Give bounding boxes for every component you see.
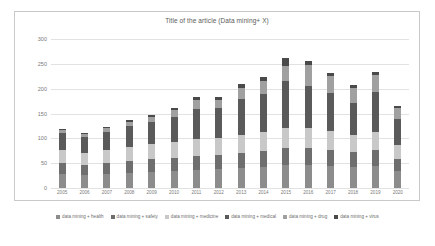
bar-segment[interactable]: [81, 153, 88, 165]
bar-segment[interactable]: [171, 158, 178, 171]
bar-segment[interactable]: [193, 100, 200, 109]
stacked-bar[interactable]: [59, 129, 66, 188]
stacked-bar[interactable]: [103, 127, 110, 188]
bar-segment[interactable]: [126, 126, 133, 147]
bar-segment[interactable]: [171, 110, 178, 117]
bar-segment[interactable]: [81, 137, 88, 153]
stacked-bar[interactable]: [394, 106, 401, 188]
legend-item[interactable]: data mining + medicine: [165, 214, 218, 219]
bar-segment[interactable]: [215, 169, 222, 188]
bar-segment[interactable]: [148, 159, 155, 172]
bar-segment[interactable]: [238, 153, 245, 168]
bar-segment[interactable]: [103, 174, 110, 188]
bar-segment[interactable]: [126, 173, 133, 188]
bar-segment[interactable]: [350, 167, 357, 188]
bar-segment[interactable]: [171, 171, 178, 188]
bar-segment[interactable]: [372, 92, 379, 133]
bar-segment[interactable]: [238, 99, 245, 136]
stacked-bar[interactable]: [350, 85, 357, 188]
bar-segment[interactable]: [282, 66, 289, 81]
bar-segment[interactable]: [193, 156, 200, 170]
bar-segment[interactable]: [215, 100, 222, 108]
bar-segment[interactable]: [238, 168, 245, 188]
stacked-bar[interactable]: [215, 97, 222, 188]
bar-segment[interactable]: [282, 81, 289, 129]
bar-segment[interactable]: [148, 144, 155, 159]
stacked-bar[interactable]: [126, 120, 133, 188]
bar-segment[interactable]: [394, 119, 401, 146]
bar-segment[interactable]: [327, 150, 334, 166]
bar-segment[interactable]: [126, 147, 133, 161]
stacked-bar[interactable]: [148, 115, 155, 188]
legend-item[interactable]: data mining + safety: [111, 214, 158, 219]
bar-segment[interactable]: [394, 145, 401, 159]
bar-slot: 2014: [252, 39, 274, 188]
bar-segment[interactable]: [327, 76, 334, 93]
bar-segment[interactable]: [394, 171, 401, 188]
stacked-bar[interactable]: [193, 97, 200, 188]
bar-segment[interactable]: [103, 163, 110, 174]
bar-segment[interactable]: [372, 132, 379, 150]
bar-segment[interactable]: [260, 94, 267, 133]
bar-segment[interactable]: [282, 165, 289, 188]
legend-item[interactable]: data mining + medical: [225, 214, 276, 219]
bar-segment[interactable]: [103, 150, 110, 163]
bar-segment[interactable]: [171, 117, 178, 143]
bar-segment[interactable]: [59, 150, 66, 163]
bar-segment[interactable]: [394, 108, 401, 119]
legend-item[interactable]: data mining + virus: [334, 214, 379, 219]
stacked-bar[interactable]: [171, 108, 178, 188]
bar-segment[interactable]: [215, 108, 222, 139]
bar-segment[interactable]: [305, 65, 312, 86]
bar-segment[interactable]: [193, 170, 200, 188]
bar-segment[interactable]: [372, 75, 379, 92]
bar-segment[interactable]: [305, 128, 312, 148]
bar-segment[interactable]: [215, 155, 222, 169]
stacked-bar[interactable]: [81, 133, 88, 188]
bar-segment[interactable]: [59, 163, 66, 174]
bar-segment[interactable]: [215, 138, 222, 155]
bar-segment[interactable]: [260, 81, 267, 94]
stacked-bar[interactable]: [327, 73, 334, 188]
bar-segment[interactable]: [350, 135, 357, 152]
bar-segment[interactable]: [148, 122, 155, 144]
bar-segment[interactable]: [305, 86, 312, 129]
bar-segment[interactable]: [305, 165, 312, 188]
bar-segment[interactable]: [59, 174, 66, 188]
bar-segment[interactable]: [193, 139, 200, 156]
bar-segment[interactable]: [193, 109, 200, 140]
bar-segment[interactable]: [148, 172, 155, 188]
legend-item[interactable]: data mining + health: [56, 214, 104, 219]
bar-segment[interactable]: [238, 88, 245, 99]
bar-segment[interactable]: [327, 131, 334, 150]
bar-segment[interactable]: [394, 159, 401, 171]
stacked-bar[interactable]: [260, 77, 267, 188]
bar-segment[interactable]: [260, 167, 267, 188]
bar-segment[interactable]: [282, 128, 289, 148]
bar-segment[interactable]: [372, 166, 379, 188]
bar-segment[interactable]: [59, 133, 66, 150]
bar-segment[interactable]: [305, 148, 312, 165]
bar-segment[interactable]: [260, 132, 267, 151]
bar-segment[interactable]: [327, 93, 334, 132]
bar-segment[interactable]: [103, 132, 110, 150]
legend-item[interactable]: data mining + drug: [283, 214, 327, 219]
bar-segment[interactable]: [171, 142, 178, 158]
bar-segment[interactable]: [126, 161, 133, 173]
stacked-bar[interactable]: [305, 61, 312, 188]
bar-segment[interactable]: [282, 58, 289, 66]
bar-segment[interactable]: [238, 135, 245, 153]
stacked-bar[interactable]: [282, 58, 289, 188]
bar-segment[interactable]: [81, 175, 88, 188]
stacked-bar[interactable]: [238, 84, 245, 188]
bar-segment[interactable]: [282, 148, 289, 165]
bar-segment[interactable]: [350, 152, 357, 167]
stacked-bar[interactable]: [372, 72, 379, 188]
bar-segment[interactable]: [260, 151, 267, 167]
x-axis-tick-label: 2008: [124, 190, 134, 195]
bar-segment[interactable]: [350, 88, 357, 103]
bar-segment[interactable]: [81, 165, 88, 175]
bar-segment[interactable]: [350, 103, 357, 136]
bar-segment[interactable]: [372, 150, 379, 166]
bar-segment[interactable]: [327, 166, 334, 188]
